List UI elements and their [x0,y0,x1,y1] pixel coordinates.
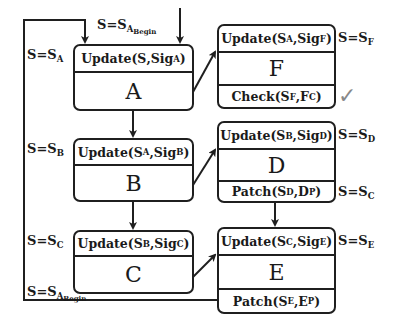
update-fn: Update( [78,236,134,251]
state-name-a: A [75,73,192,109]
footer-fn: Patch( [233,294,279,309]
check-footer-f: Check(SF,FC) [219,86,334,107]
update-close: ) [180,51,186,66]
update-close: ) [183,145,189,160]
update-header-f: Update(SA,SigF) [219,26,334,51]
update-arg: S [277,31,286,46]
state-box-d: Update(SB,SigD) D Patch(SD,DP) [217,121,336,203]
update-header-a: Update(S,SigA) [75,46,192,71]
state-name-c: C [75,257,192,292]
state-name-e: E [219,256,334,288]
label-s-c-left: S=SC [27,234,63,247]
update-close: ) [326,31,332,46]
footer-a: S [278,294,287,309]
footer-close: ) [316,89,322,104]
update-sig: ,Sig [293,128,320,143]
patch-footer-e: Patch(SE,EP) [219,290,334,312]
update-arg: S [137,51,146,66]
footer-b: ,E [294,294,308,309]
update-arg: S [276,128,285,143]
update-close: ) [184,236,190,251]
state-box-a: Update(S,SigA) A [73,44,194,111]
update-header-e: Update(SC,SigE) [219,229,334,254]
update-sig: ,Sig [293,234,320,249]
update-arg: S [134,236,143,251]
update-sig: ,Sig [293,31,320,46]
update-close: ) [326,234,332,249]
footer-b: ,F [296,89,309,104]
check-mark-icon: ✓ [338,83,356,108]
footer-a: S [277,184,286,199]
update-fn: Update( [221,234,277,249]
footer-close: ) [315,184,321,199]
label-s-a-begin-top: S=SABegin [97,18,156,32]
update-sig: ,Sig [150,236,177,251]
label-s-b: S=SB [27,142,64,155]
label-s-a: S=SA [27,48,63,61]
update-fn: Update( [78,145,134,160]
update-close: ) [327,128,333,143]
footer-close: ) [314,294,320,309]
footer-b: ,D [294,184,309,199]
update-header-d: Update(SB,SigD) [219,123,334,148]
state-name-f: F [219,53,334,84]
patch-footer-d: Patch(SD,DP) [219,182,334,201]
footer-fn: Check( [231,89,280,104]
state-box-b: Update(SA,SigB) B [73,138,194,202]
update-header-c: Update(SB,SigC) [75,232,192,255]
update-arg: S [277,234,286,249]
label-s-a-begin-bottom: S=SABegin [27,285,86,299]
update-fn: Update( [81,51,137,66]
label-s-c-right: S=SC [338,185,374,198]
update-header-b: Update(SA,SigB) [75,140,192,164]
update-sig: ,Sig [146,51,173,66]
update-sig: ,Sig [149,145,176,160]
update-arg: S [134,145,143,160]
state-box-c: Update(SB,SigC) C [73,230,194,294]
label-s-e: S=SE [338,234,374,247]
state-name-b: B [75,166,192,200]
state-box-f: Update(SA,SigF) F Check(SF,FC) [217,24,336,109]
footer-a: S [281,89,290,104]
label-s-f: S=SF [338,31,374,44]
footer-fn: Patch( [232,184,278,199]
state-box-e: Update(SC,SigE) E Patch(SE,EP) [217,227,336,314]
update-fn: Update( [220,128,276,143]
update-fn: Update( [221,31,277,46]
state-name-d: D [219,150,334,180]
label-s-d: S=SD [338,128,375,141]
